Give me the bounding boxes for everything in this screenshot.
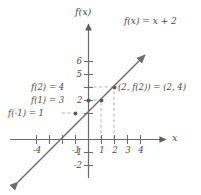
y-tick-label-6: 6	[72, 57, 82, 66]
function-graph-figure: f(x) x f(x) = x + 2 f(2) = 4 f(1) = 3 2 …	[0, 0, 201, 195]
f-of-neg1-label: f(-1) = 1	[8, 109, 44, 118]
y-intercept-label: 2	[77, 96, 82, 105]
point-coordinate-label: (2, f(2)) = (2, 4)	[118, 83, 186, 92]
x-tick-label-4: 4	[134, 146, 148, 155]
x-tick-label-neg4: -4	[30, 146, 44, 155]
point-2-4	[113, 86, 117, 90]
x-axis-label: x	[172, 133, 177, 143]
point-1-3b	[100, 99, 104, 103]
point-0-2	[87, 99, 91, 103]
f-of-2-label: f(2) = 4	[31, 83, 64, 92]
point-neg1-1	[74, 112, 78, 116]
y-tick-label-neg1: -1	[68, 148, 82, 157]
y-tick-label-5: 5	[72, 70, 82, 79]
f-of-1-label: f(1) = 3	[31, 96, 64, 105]
y-axis-label: f(x)	[75, 7, 91, 17]
y-tick-label-neg2: -2	[68, 161, 82, 170]
function-equation-label: f(x) = x + 2	[124, 17, 177, 26]
x-tick-label-3: 3	[121, 146, 135, 155]
x-tick-label-2: 2	[108, 146, 122, 155]
x-tick-label-1: 1	[95, 146, 109, 155]
